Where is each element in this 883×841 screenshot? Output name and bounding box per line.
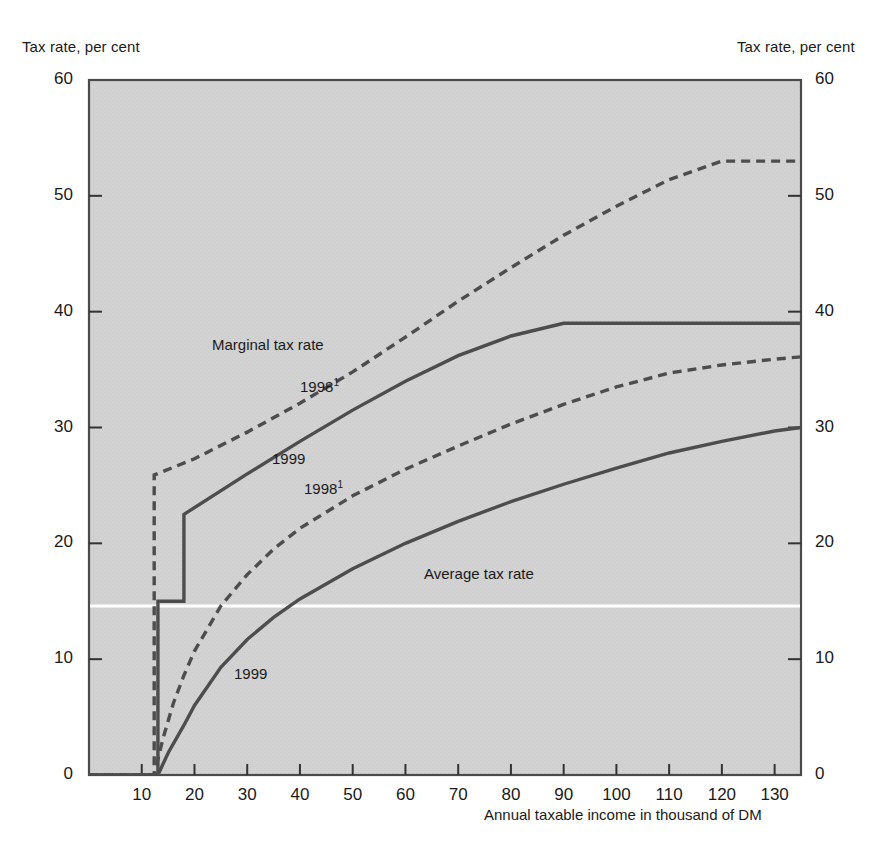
x-tick-50: 50 xyxy=(333,785,373,805)
annotation-marginal-tax-rate: Marginal tax rate xyxy=(212,336,324,353)
y-tick-left-50: 50 xyxy=(33,185,73,205)
left-axis-caption: Tax rate, per cent xyxy=(22,38,140,55)
x-tick-130: 130 xyxy=(755,785,795,805)
y-tick-left-40: 40 xyxy=(33,301,73,321)
x-tick-60: 60 xyxy=(385,785,425,805)
plot-background xyxy=(89,80,801,775)
y-tick-left-60: 60 xyxy=(33,69,73,89)
y-tick-right-20: 20 xyxy=(815,532,855,552)
x-tick-70: 70 xyxy=(438,785,478,805)
chart-plot-area xyxy=(0,0,883,841)
x-axis-label: Annual taxable income in thousand of DM xyxy=(484,806,762,823)
annotation-average-tax-rate: Average tax rate xyxy=(424,565,534,582)
x-tick-90: 90 xyxy=(544,785,584,805)
y-tick-right-50: 50 xyxy=(815,185,855,205)
annotation-average-1999: 1999 xyxy=(234,665,267,682)
y-tick-right-40: 40 xyxy=(815,301,855,321)
x-tick-120: 120 xyxy=(702,785,742,805)
x-tick-10: 10 xyxy=(122,785,162,805)
x-tick-100: 100 xyxy=(596,785,636,805)
y-tick-left-10: 10 xyxy=(33,648,73,668)
x-tick-40: 40 xyxy=(280,785,320,805)
y-tick-right-0: 0 xyxy=(815,764,855,784)
x-tick-110: 110 xyxy=(649,785,689,805)
x-tick-30: 30 xyxy=(227,785,267,805)
right-axis-caption: Tax rate, per cent xyxy=(737,38,855,55)
y-tick-left-30: 30 xyxy=(33,417,73,437)
y-tick-right-60: 60 xyxy=(815,69,855,89)
annotation-marginal-1998-year: 1998 xyxy=(300,378,333,395)
y-tick-right-10: 10 xyxy=(815,648,855,668)
y-tick-left-20: 20 xyxy=(33,532,73,552)
x-tick-20: 20 xyxy=(174,785,214,805)
annotation-marginal-1998-footnote: 1 xyxy=(333,377,339,388)
annotation-average-1998-year: 1998 xyxy=(304,480,337,497)
y-tick-left-0: 0 xyxy=(33,764,73,784)
annotation-average-1998: 19981 xyxy=(304,479,343,497)
annotation-marginal-1999: 1999 xyxy=(272,450,305,467)
chart-figure: Tax rate, per cent Tax rate, per cent 01… xyxy=(0,0,883,841)
annotation-marginal-1998: 19981 xyxy=(300,377,339,395)
annotation-average-1998-footnote: 1 xyxy=(337,479,343,490)
y-tick-right-30: 30 xyxy=(815,417,855,437)
x-tick-80: 80 xyxy=(491,785,531,805)
